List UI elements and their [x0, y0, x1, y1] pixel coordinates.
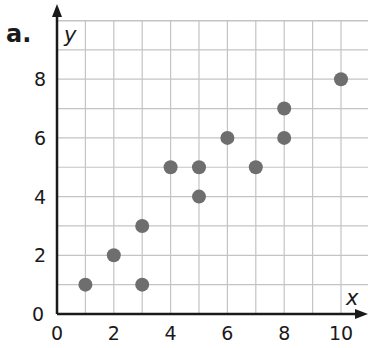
axes: [52, 4, 368, 319]
data-points: [78, 72, 348, 291]
data-point: [277, 131, 291, 145]
data-point: [220, 131, 234, 145]
x-tick-label: 6: [221, 322, 233, 344]
x-tick-label: 2: [108, 322, 120, 344]
x-tick-label: 8: [278, 322, 290, 344]
part-label: a.: [6, 20, 31, 48]
data-point: [135, 278, 149, 292]
grid-lines: [57, 21, 368, 315]
x-axis-label: x: [345, 286, 359, 310]
data-point: [78, 278, 92, 292]
x-tick-label: 0: [51, 322, 63, 344]
x-tick-label: 10: [329, 322, 353, 344]
x-axis-arrow-icon: [355, 309, 368, 319]
data-point: [192, 190, 206, 204]
data-point: [135, 219, 149, 233]
scatter-plot: 024681002468 x y a.: [0, 0, 368, 348]
tick-labels: 024681002468: [32, 68, 353, 344]
data-point: [334, 72, 348, 86]
y-tick-label: 6: [34, 127, 46, 149]
y-tick-label: 8: [34, 68, 46, 90]
y-axis-label: y: [63, 23, 77, 47]
data-point: [164, 160, 178, 174]
y-tick-label: 4: [34, 186, 46, 208]
data-point: [107, 248, 121, 262]
y-tick-label: 2: [34, 244, 46, 266]
y-axis-arrow-icon: [52, 4, 62, 17]
data-point: [277, 102, 291, 116]
y-tick-label: 0: [32, 303, 44, 325]
data-point: [249, 160, 263, 174]
data-point: [192, 160, 206, 174]
x-tick-label: 4: [165, 322, 177, 344]
